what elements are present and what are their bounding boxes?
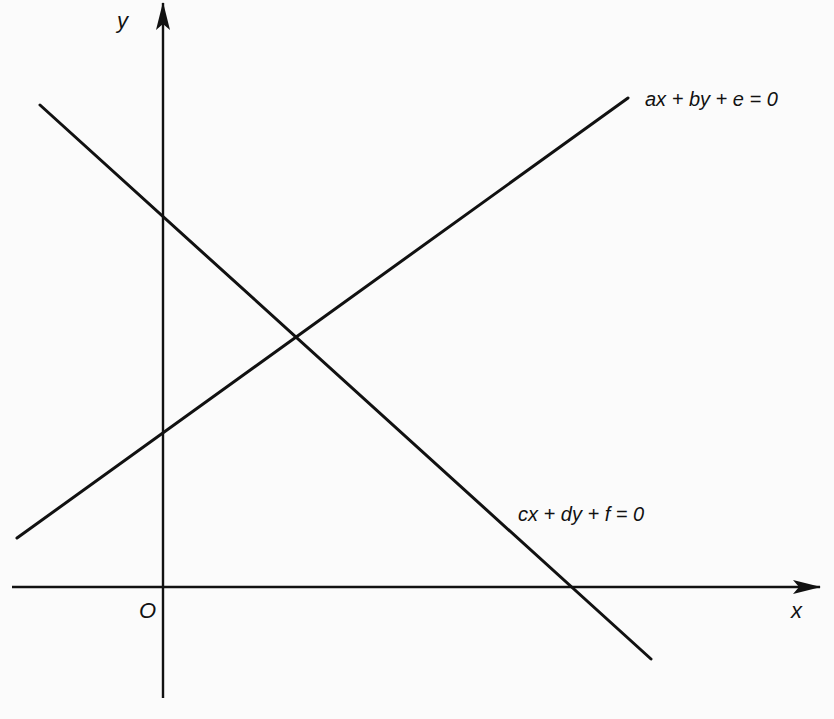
scanned-page: y x O ax + by + e = 0 cx + dy + f = 0 [0,0,834,719]
origin-label: O [139,598,156,624]
y-axis-label: y [117,8,128,34]
line-ax-by-e [17,98,628,538]
line1-equation-label: ax + by + e = 0 [645,88,778,111]
x-axis-label: x [791,598,802,624]
line-cx-dy-f [40,105,651,659]
line2-equation-label: cx + dy + f = 0 [518,503,644,526]
